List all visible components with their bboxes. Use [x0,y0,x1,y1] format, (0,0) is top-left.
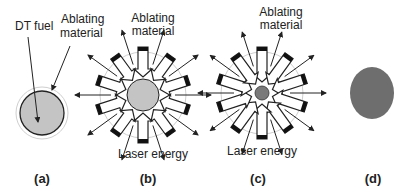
dt-fuel-label: DT fuel [15,19,53,33]
laser-beam-tail [257,135,267,139]
fuel-capsule [20,91,64,135]
laser-energy-label: Laser energy [227,144,297,158]
fuel-capsule-compressed [255,86,269,100]
laser-beam-tail [138,139,148,143]
ablating-label-line1: Ablating [61,12,104,26]
panel-c-label: (c) [250,171,266,186]
ablating-label-line2: material [260,18,303,32]
laser-beam-arrow [134,113,152,143]
fuel-capsule [127,79,159,111]
laser-beam-tail [138,47,148,51]
laser-beam-tail [257,47,267,51]
ablating-label-line1: Ablating [259,5,302,19]
ablating-label-line1: Ablating [131,11,174,25]
panel-a-label: (a) [34,171,50,186]
laser-beam-arrow [134,47,152,77]
panel-a: DT fuel Ablating material (a) [15,12,104,186]
ablating-label-line2: material [60,26,103,40]
laser-energy-label: Laser energy [118,147,188,161]
panel-d: (d) [350,67,394,186]
panel-d-label: (d) [365,171,382,186]
ignited-core [350,67,394,119]
panel-c: Ablating material Laser energy (c) [198,5,326,186]
ablating-pointer [52,46,70,90]
panel-b-label: (b) [140,171,157,186]
ablating-label-line2: material [132,24,175,38]
icf-diagram: DT fuel Ablating material (a) Ablating m… [0,0,408,194]
